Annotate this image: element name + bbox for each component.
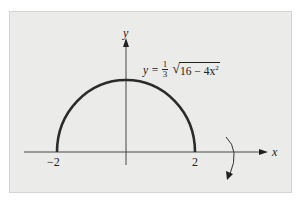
equation-sqrt: √ 16 − 4x2	[172, 62, 219, 77]
tick-label-neg2: −2	[47, 156, 60, 168]
equation-radicand: 16 − 4x2	[179, 62, 220, 77]
equation-lhs: y =	[143, 64, 159, 76]
y-axis-label: y	[123, 27, 128, 39]
x-axis-label: x	[272, 146, 277, 158]
equation-fraction: 1 3	[162, 60, 169, 79]
plot-canvas	[0, 0, 300, 204]
x-axis-arrow-icon	[259, 149, 268, 155]
rotation-arrow-path	[226, 137, 234, 174]
tick-label-2: 2	[192, 156, 198, 168]
radicand-exponent: 2	[215, 64, 219, 72]
rotation-arrow-head-icon	[226, 171, 233, 180]
curve-equation-label: y = 1 3 √ 16 − 4x2	[143, 60, 220, 79]
radicand-text: 16 − 4x	[180, 65, 215, 77]
fraction-denominator: 3	[163, 70, 168, 79]
